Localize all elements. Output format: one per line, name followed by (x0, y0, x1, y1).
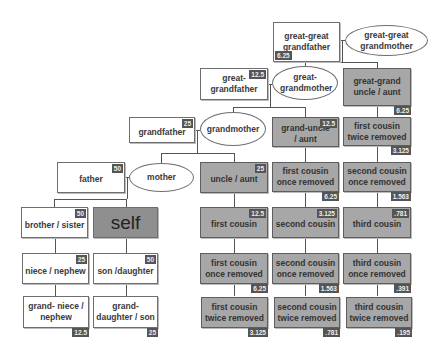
dna-percent-badge: 25 (76, 255, 87, 264)
connector (126, 237, 127, 253)
node-label: second cousin twice removed (276, 302, 338, 324)
node-label: second cousin (276, 219, 336, 230)
dna-percent-badge: 1.563 (391, 192, 411, 201)
connector (233, 107, 305, 108)
connector (234, 192, 235, 207)
dna-percent-badge: 25 (147, 328, 158, 337)
node-grand-niece-nephew: grand- niece / nephew 12.5 (23, 296, 89, 328)
dna-percent-badge: 3.125 (248, 328, 268, 337)
node-label: second cousin once removed (275, 258, 337, 280)
node-label: grand- niece / nephew (24, 301, 88, 323)
node-label: grand- daughter / son (95, 301, 157, 323)
node-grand-uncle-aunt: grand-uncle / aunt 12.5 (272, 117, 339, 147)
connector (377, 106, 378, 117)
connector (161, 153, 162, 163)
node-label: grandmother (207, 124, 259, 135)
node-label: first cousin (211, 219, 257, 230)
node-first-cousin-twice-removed-up: first cousin twice removed 3.125 (343, 117, 411, 146)
node-second-cousin-twice-removed: second cousin twice removed .781 (274, 297, 340, 328)
connector (305, 283, 306, 296)
node-first-cousin-twice-removed-down: first cousin twice removed 3.125 (201, 297, 268, 328)
node-great-grandmother: great-grandmother (272, 66, 338, 100)
node-third-cousin: third cousin .781 (343, 207, 411, 238)
dna-percent-badge: 6.25 (275, 51, 292, 60)
node-great-grandfather: great-grandfather 12.5 (200, 68, 268, 100)
node-self: self (93, 207, 158, 238)
dna-percent-badge: .391 (394, 284, 411, 293)
dna-percent-badge: 25 (182, 119, 193, 128)
node-first-cousin: first cousin 12.5 (200, 207, 268, 238)
node-label: third cousin once removed (346, 258, 408, 280)
node-first-cousin-once-removed-down: first cousin once removed 6.25 (200, 253, 268, 284)
connector (126, 283, 127, 296)
node-third-cousin-twice-removed: third cousin twice removed .195 (346, 297, 412, 328)
connector (342, 40, 343, 62)
connector (234, 153, 235, 162)
node-label: third cousin twice removed (348, 302, 410, 324)
node-label: second cousin once removed (346, 166, 408, 188)
connector (377, 146, 378, 162)
node-label: great-grandmother (280, 72, 330, 94)
node-label: great-grand uncle / aunt (349, 76, 405, 98)
connector (197, 130, 198, 153)
dna-percent-badge: 3.125 (317, 209, 337, 218)
dna-percent-badge: .195 (395, 328, 412, 337)
node-label: first cousin once removed (276, 166, 336, 188)
dna-percent-badge: 3.125 (391, 146, 411, 155)
dna-percent-badge: 1.563 (319, 284, 339, 293)
connector (161, 153, 234, 154)
dna-percent-badge: 6.25 (394, 106, 411, 115)
dna-percent-badge: 12.5 (72, 328, 89, 337)
node-third-cousin-once-removed: third cousin once removed .391 (343, 253, 411, 284)
connector (126, 199, 127, 207)
dna-percent-badge: 25 (255, 164, 266, 173)
node-second-cousin-once-removed-up: second cousin once removed 1.563 (343, 162, 411, 192)
node-uncle-aunt: uncle / aunt 25 (200, 162, 268, 193)
connector (305, 107, 306, 117)
node-label: third cousin (353, 219, 402, 230)
connector (305, 237, 306, 253)
connector (234, 237, 235, 253)
connector (305, 62, 377, 63)
node-second-cousin-once-removed-down: second cousin once removed 1.563 (272, 253, 339, 284)
dna-percent-badge: 12.5 (320, 119, 337, 128)
connector (234, 283, 235, 296)
node-great-great-grandmother: great-great grandmother (345, 25, 428, 56)
node-grandfather: grandfather 25 (129, 117, 195, 143)
node-first-cousin-once-removed-up: first cousin once removed 6.25 (272, 162, 339, 192)
node-label: first cousin once removed (204, 258, 264, 280)
connector (54, 199, 55, 207)
dna-percent-badge: 50 (75, 209, 86, 218)
node-son-daughter: son /daughter 50 (93, 253, 158, 284)
dna-percent-badge: .781 (323, 328, 340, 337)
node-label: great-great grandmother (357, 30, 417, 52)
node-label: mother (147, 172, 176, 183)
node-label: son /daughter (97, 266, 153, 277)
node-grandmother: grandmother (200, 112, 266, 146)
node-great-grand-uncle-aunt: great-grand uncle / aunt 6.25 (343, 68, 411, 106)
node-label: brother / sister (25, 220, 85, 231)
node-mother: mother (129, 163, 194, 192)
node-label: father (79, 174, 103, 185)
connector (270, 84, 271, 108)
node-second-cousin: second cousin 3.125 (272, 207, 339, 238)
node-father: father 50 (57, 162, 125, 193)
dna-percent-badge: .781 (392, 209, 409, 218)
dna-percent-badge: 6.25 (251, 284, 268, 293)
node-niece-nephew: niece / nephew 25 (22, 253, 89, 284)
node-label: great-great grandfather (282, 31, 332, 53)
node-brother-sister: brother / sister 50 (21, 207, 88, 238)
node-label: grandfather (138, 127, 185, 138)
connector (305, 146, 306, 162)
dna-percent-badge: 50 (145, 255, 156, 264)
node-grand-daughter-son: grand- daughter / son 25 (93, 296, 158, 328)
node-label: niece / nephew (25, 266, 85, 277)
connector (377, 237, 378, 253)
connector (377, 283, 378, 296)
connector (55, 283, 56, 296)
dna-percent-badge: 6.25 (322, 192, 339, 201)
node-label: first cousin twice removed (346, 121, 408, 143)
dna-percent-badge: 50 (112, 164, 123, 173)
dna-percent-badge: 12.5 (249, 70, 266, 79)
node-great-great-grandfather: great-great grandfather 6.25 (273, 22, 340, 62)
